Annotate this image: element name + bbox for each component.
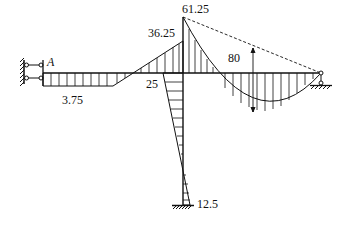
point-a-label: A: [47, 56, 54, 68]
value-midspan-sag: 80: [228, 52, 240, 64]
value-left-beam: 3.75: [62, 94, 83, 106]
value-joint-beam-left: 36.25: [148, 27, 175, 39]
column-fixed-base-icon: [172, 206, 194, 210]
value-column-top: 25: [146, 78, 158, 90]
value-joint-peak: 61.25: [182, 3, 209, 15]
value-column-base: 12.5: [197, 198, 218, 210]
sag-dimension-arrow: [251, 48, 255, 112]
left-fixed-support-icon: [20, 58, 43, 86]
